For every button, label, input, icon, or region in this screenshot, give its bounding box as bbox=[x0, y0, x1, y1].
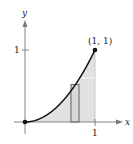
point-label-1-1: (1, 1) bbox=[88, 36, 112, 46]
origin-point bbox=[23, 120, 28, 125]
x-tick-label-1: 1 bbox=[92, 128, 98, 138]
x-axis-label: x bbox=[125, 117, 130, 127]
y-tick-label-1: 1 bbox=[14, 45, 20, 55]
y-axis-label: y bbox=[21, 8, 28, 18]
shaded-area bbox=[25, 50, 95, 122]
endpoint-1-1 bbox=[93, 48, 98, 53]
x-axis-arrow-icon bbox=[116, 120, 123, 125]
area-under-curve-chart: x y 1 1 (1, 1) bbox=[0, 0, 133, 144]
y-axis-arrow-icon bbox=[23, 20, 28, 27]
